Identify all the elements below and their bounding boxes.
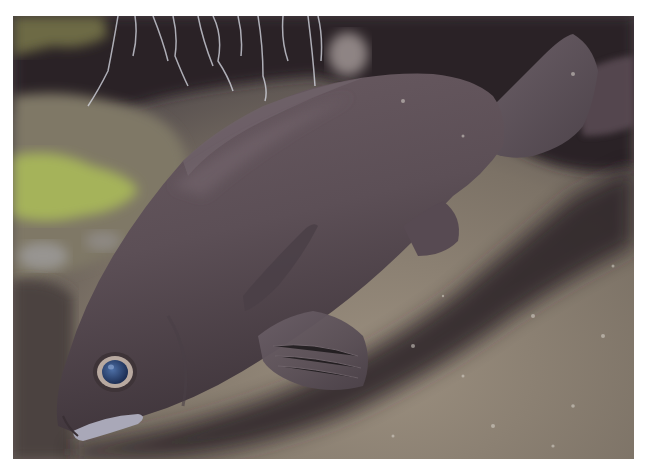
fish-photo-illustration: [13, 16, 634, 459]
fish-photo: [13, 16, 634, 459]
coral-bump: [85, 231, 121, 251]
fish-eye: [93, 352, 137, 392]
coral-bump: [18, 242, 68, 270]
floating-particle: [328, 32, 368, 76]
